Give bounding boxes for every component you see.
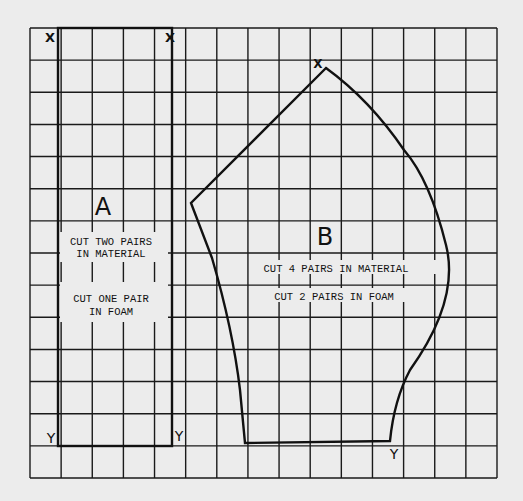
piece-a-instruction-4: IN FOAM <box>89 306 133 318</box>
piece-b-instruction-1: CUT 4 PAIRS IN MATERIAL <box>264 263 409 275</box>
marker-x-a-left: X <box>45 30 55 45</box>
pattern-diagram: A CUT TWO PAIRS IN MATERIAL CUT ONE PAIR… <box>0 0 523 501</box>
piece-b-instruction-2: CUT 2 PAIRS IN FOAM <box>274 291 394 303</box>
marker-x-a-right: X <box>165 30 175 45</box>
piece-a-instruction-3: CUT ONE PAIR <box>73 293 149 305</box>
piece-a-instruction-2: IN MATERIAL <box>76 248 145 260</box>
piece-a-label: A <box>95 193 112 221</box>
piece-b-label: B <box>317 223 333 251</box>
marker-y-a-left: Y <box>46 430 56 446</box>
marker-y-b-bottom: Y <box>389 446 399 462</box>
marker-y-a-right: Y <box>174 428 184 444</box>
marker-x-b-top: X <box>313 57 323 71</box>
piece-a-instruction-1: CUT TWO PAIRS <box>70 236 152 248</box>
